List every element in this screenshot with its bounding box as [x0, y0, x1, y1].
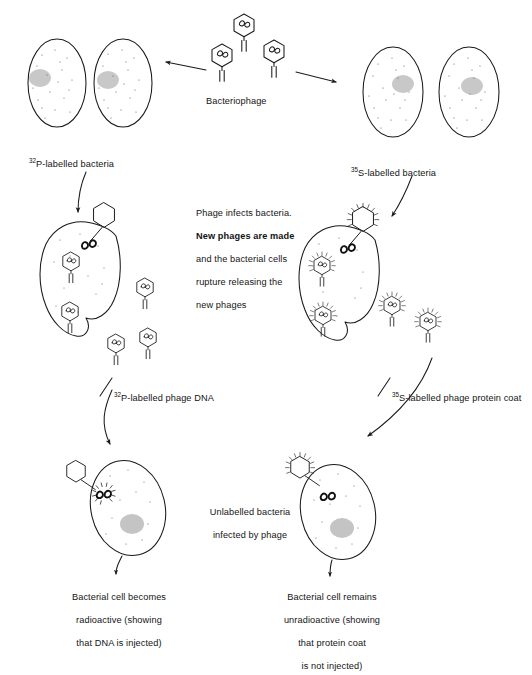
arrow-to-right-conclusion — [330, 560, 332, 576]
phage-icon — [264, 40, 284, 77]
p32-bacteria-text: P-labelled bacteria — [36, 159, 114, 169]
right-conclusion-line-2: unradioactive (showing — [256, 615, 408, 627]
isotope-superscript-35s: 35 — [392, 391, 399, 398]
bottom-left-cell-group — [67, 453, 175, 563]
cytoplasm-stipple — [444, 57, 485, 128]
process-line-1: Phage infects bacteria. — [196, 208, 294, 220]
ruptured-bacterium-outline — [40, 222, 120, 337]
phage-icon-radioactive — [415, 308, 442, 342]
arrow-p32-dna-down — [104, 390, 112, 444]
left-conclusion-line-2: radioactive (showing — [44, 615, 194, 627]
nucleoid — [97, 71, 119, 89]
phage-icon — [63, 252, 79, 283]
phage-icon — [212, 44, 232, 81]
s35-bacteria-label: 35S-labelled bacteria — [351, 156, 436, 179]
phage-icon-radioactive — [310, 302, 337, 336]
infected-cell-right-group — [299, 203, 441, 342]
leader-line-right — [378, 378, 390, 396]
s35-protein-coat-label: 35S-labelled phage protein coat — [392, 381, 521, 404]
phage-head — [67, 461, 96, 490]
cytoplasm-stipple — [312, 237, 363, 316]
arrow-right-to-infection — [392, 176, 412, 216]
process-line-3: and the bacterial cells — [196, 254, 294, 266]
cytoplasm-stipple — [103, 469, 150, 544]
nucleoid — [461, 77, 483, 95]
unlabelled-line-1: Unlabelled bacteria — [186, 507, 314, 519]
p32-bacteria-group — [28, 39, 152, 127]
phage-tail — [91, 227, 102, 240]
p32-bacteria-label: 32P-labelled bacteria — [29, 147, 114, 170]
cytoplasm-stipple — [53, 233, 104, 312]
process-line-5: new phages — [196, 300, 294, 312]
s35-bacteria-group — [363, 47, 499, 137]
nucleoid — [392, 75, 414, 93]
isotope-superscript-32p: 32 — [114, 391, 121, 398]
infected-cell-left-group — [40, 203, 120, 337]
process-description: Phage infects bacteria. New phages are m… — [196, 196, 294, 324]
phage-icon — [137, 278, 153, 309]
nucleoid — [120, 514, 144, 534]
arrow-phage-to-left-bacteria — [166, 62, 206, 70]
cytoplasm-stipple — [313, 473, 360, 548]
nucleoid — [29, 69, 51, 87]
process-line-4: rupture releasing the — [196, 277, 294, 289]
p32-phage-dna-label: 32P-labelled phage DNA — [114, 381, 214, 404]
phage-icon-radioactive — [379, 292, 406, 326]
isotope-superscript-32p: 32 — [29, 157, 36, 164]
phage-icon — [140, 328, 156, 359]
s35-protein-coat-text: S-labelled phage protein coat — [399, 393, 521, 403]
bacterium-outline — [363, 47, 423, 137]
injected-dna — [320, 491, 336, 502]
left-conclusion-line-3: that DNA is injected) — [44, 638, 194, 650]
cytoplasm-stipple — [368, 57, 409, 128]
ruptured-bacterium-outline — [299, 226, 379, 341]
bacteriophage-label: Bacteriophage — [206, 96, 267, 108]
nucleoid — [330, 518, 354, 538]
phage-icon — [234, 14, 254, 51]
right-conclusion-line-1: Bacterial cell remains — [256, 592, 408, 604]
unlabelled-bacteria-caption: Unlabelled bacteria infected by phage — [186, 495, 314, 553]
right-conclusion-caption: Bacterial cell remains unradioactive (sh… — [256, 580, 408, 675]
arrow-phage-to-right-bacteria — [296, 72, 336, 82]
injected-dna — [340, 242, 356, 254]
s35-bacteria-text: S-labelled bacteria — [358, 168, 436, 178]
left-conclusion-line-1: Bacterial cell becomes — [44, 592, 194, 604]
bacterium-outline — [81, 453, 175, 563]
left-conclusion-caption: Bacterial cell becomes radioactive (show… — [44, 580, 194, 661]
phage-head-radioactive — [285, 453, 319, 486]
phage-head — [94, 203, 115, 228]
phage-icon-radioactive — [309, 252, 336, 286]
unlabelled-line-2: infected by phage — [186, 530, 314, 542]
injected-dna — [81, 238, 97, 250]
arrow-left-to-infection — [78, 172, 86, 212]
arrow-to-left-conclusion — [116, 556, 122, 574]
process-line-2: New phages are made — [196, 231, 294, 243]
isotope-superscript-35s: 35 — [351, 166, 358, 173]
p32-phage-dna-text: P-labelled phage DNA — [121, 393, 214, 403]
phage-icon — [62, 302, 78, 333]
right-conclusion-line-4: is not injected) — [256, 661, 408, 673]
free-phage-group-top — [212, 14, 284, 81]
right-conclusion-line-3: that protein coat — [256, 638, 408, 650]
phage-icon — [108, 334, 124, 365]
